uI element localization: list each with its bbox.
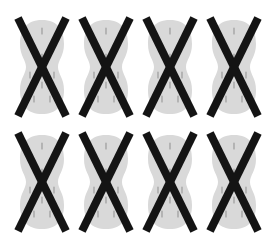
crossed-out-peanut-grid	[0, 0, 271, 243]
crossed-out-peanut-icon	[206, 16, 262, 118]
crossed-out-peanut-icon	[142, 131, 198, 233]
crossed-out-peanut-icon	[142, 16, 198, 118]
crossed-out-peanut-icon	[206, 131, 262, 233]
crossed-out-peanut-icon	[14, 131, 70, 233]
crossed-out-peanut-icon	[78, 131, 134, 233]
crossed-out-peanut-icon	[78, 16, 134, 118]
crossed-out-peanut-icon	[14, 16, 70, 118]
